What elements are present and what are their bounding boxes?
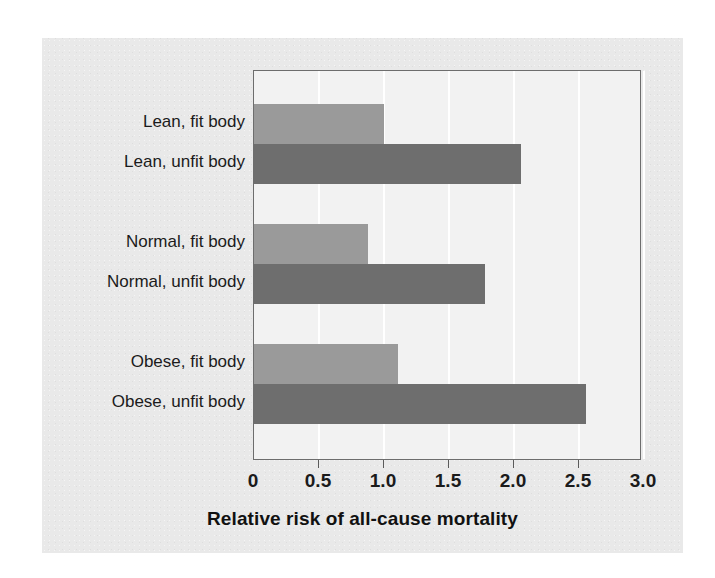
x-axis-ticks	[253, 460, 643, 470]
bar-lean-fit	[254, 104, 384, 144]
category-label-obese-unfit: Obese, unfit body	[112, 392, 245, 412]
bar-normal-fit	[254, 224, 368, 264]
category-label-column: Lean, fit body Lean, unfit body Normal, …	[42, 70, 245, 460]
tick-mark-1.0	[383, 460, 384, 468]
figure-panel: Lean, fit body Lean, unfit body Normal, …	[42, 38, 683, 553]
tick-mark-2.0	[513, 460, 514, 468]
tick-label-3.0: 3.0	[630, 470, 656, 492]
x-axis-title: Relative risk of all-cause mortality	[42, 508, 683, 530]
x-axis-tick-labels: 00.51.01.52.02.53.0	[253, 470, 643, 498]
bar-normal-unfit	[254, 264, 485, 304]
tick-mark-2.5	[578, 460, 579, 468]
tick-mark-1.5	[448, 460, 449, 468]
gridline-3.0	[643, 71, 645, 459]
bar-obese-fit	[254, 344, 398, 384]
plot-area	[253, 70, 641, 460]
tick-label-2.0: 2.0	[500, 470, 526, 492]
bar-obese-unfit	[254, 384, 586, 424]
tick-mark-0.5	[318, 460, 319, 468]
tick-label-1.0: 1.0	[370, 470, 396, 492]
bar-lean-unfit	[254, 144, 521, 184]
category-label-lean-fit: Lean, fit body	[143, 112, 245, 132]
category-label-obese-fit: Obese, fit body	[131, 352, 245, 372]
tick-label-1.5: 1.5	[435, 470, 461, 492]
category-label-normal-fit: Normal, fit body	[126, 232, 245, 252]
category-label-normal-unfit: Normal, unfit body	[107, 272, 245, 292]
tick-label-0: 0	[248, 470, 259, 492]
category-label-lean-unfit: Lean, unfit body	[124, 152, 245, 172]
tick-label-2.5: 2.5	[565, 470, 591, 492]
tick-label-0.5: 0.5	[305, 470, 331, 492]
